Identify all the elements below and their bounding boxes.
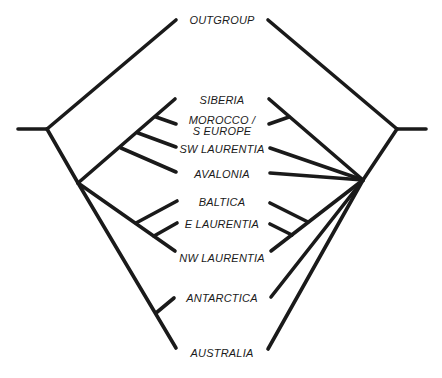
right-branch-morocco <box>269 117 289 124</box>
label-antarctica: ANTARCTICA <box>185 292 257 304</box>
label-nw-laurentia: NW LAURENTIA <box>179 252 265 264</box>
taxon-labels: OUTGROUP SIBERIA MOROCCO / S EUROPE SW L… <box>179 14 265 359</box>
right-branch-baltica <box>270 203 308 222</box>
label-siberia: SIBERIA <box>200 94 245 106</box>
left-branch-baltica <box>136 201 177 223</box>
right-branch-siberia <box>269 99 363 180</box>
label-morocco-line2: S EUROPE <box>193 125 252 137</box>
left-branch-avalonia <box>121 148 176 172</box>
left-branch-sw-laurentia <box>138 133 176 147</box>
left-clade-b-backbone <box>78 183 175 251</box>
label-outgroup: OUTGROUP <box>189 14 255 26</box>
right-cladogram <box>268 20 426 349</box>
label-australia: AUSTRALIA <box>190 347 254 359</box>
label-sw-laurentia: SW LAURENTIA <box>180 143 265 155</box>
left-branch-morocco <box>156 117 176 124</box>
label-e-laurentia: E LAURENTIA <box>185 218 259 230</box>
left-branch-antarctica <box>156 298 174 313</box>
left-ingroup-stem <box>47 129 78 183</box>
left-cladogram <box>18 20 177 348</box>
cladogram-diagram: OUTGROUP SIBERIA MOROCCO / S EUROPE SW L… <box>0 0 442 378</box>
right-ingroup-stem <box>363 129 397 180</box>
label-avalonia: AVALONIA <box>193 168 249 180</box>
right-branch-australia <box>268 180 363 349</box>
left-branch-e-laurentia <box>154 223 177 236</box>
label-baltica: BALTICA <box>199 196 245 208</box>
right-branch-e-laurentia <box>270 224 292 235</box>
